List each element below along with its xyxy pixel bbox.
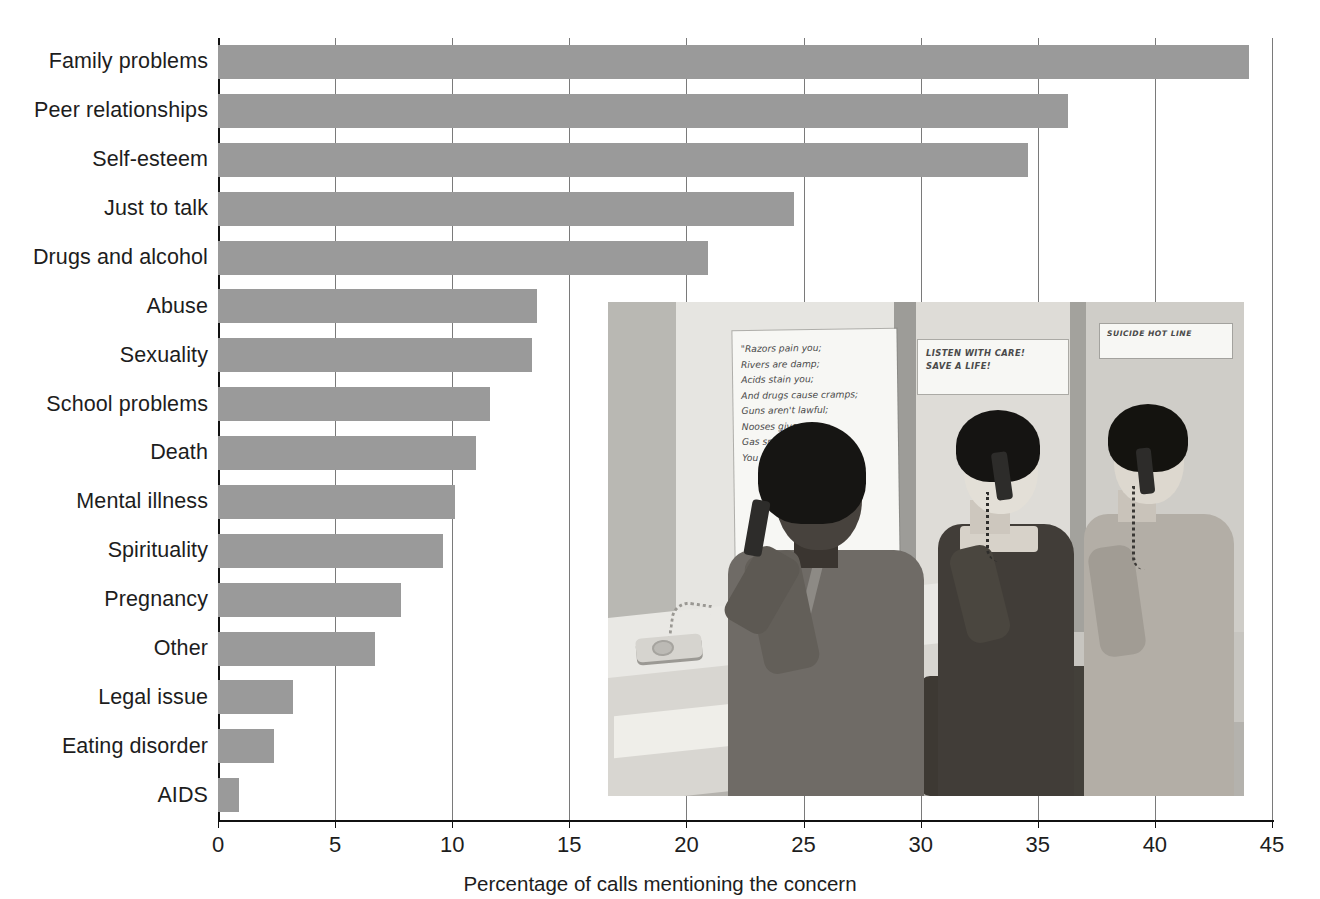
x-tick-label: 15	[539, 832, 599, 858]
x-tick	[1038, 820, 1039, 828]
x-tick-label: 45	[1242, 832, 1302, 858]
y-axis-label: Death	[0, 440, 208, 464]
y-axis-labels: Family problemsPeer relationshipsSelf-es…	[0, 38, 208, 820]
y-axis-label: Pregnancy	[0, 587, 208, 611]
x-tick-label: 25	[774, 832, 834, 858]
y-axis-label: Spirituality	[0, 538, 208, 562]
listen-with-care-sign: LISTEN WITH CARE! SAVE A LIFE!	[918, 340, 1068, 394]
x-tick	[569, 820, 570, 828]
bar-pregnancy	[218, 583, 401, 617]
gridline-45	[1272, 38, 1273, 820]
bar-school-problems	[218, 387, 490, 421]
x-tick	[921, 820, 922, 828]
photo-person-3-handset-cord	[1132, 486, 1161, 570]
y-axis-label: Self-esteem	[0, 147, 208, 171]
bar-aids	[218, 778, 239, 812]
bar-row	[218, 38, 1272, 87]
y-axis-label: Mental illness	[0, 489, 208, 513]
photo-person-1-hair	[758, 422, 866, 524]
x-tick	[804, 820, 805, 828]
x-tick-label: 20	[656, 832, 716, 858]
x-tick	[1272, 820, 1273, 828]
bar-row	[218, 234, 1272, 283]
bar-abuse	[218, 289, 537, 323]
suicide-hot-line-sign: SUICIDE HOT LINE	[1100, 324, 1232, 358]
x-tick-label: 5	[305, 832, 365, 858]
bar-peer-relationships	[218, 94, 1068, 128]
photo-person-2-handset-cord	[986, 492, 1017, 562]
bar-row	[218, 136, 1272, 185]
x-tick	[686, 820, 687, 828]
y-axis-label: Drugs and alcohol	[0, 245, 208, 269]
x-axis-title: Percentage of calls mentioning the conce…	[0, 872, 1320, 896]
x-tick-label: 40	[1125, 832, 1185, 858]
x-tick	[218, 820, 219, 828]
y-axis-label: Family problems	[0, 49, 208, 73]
bar-self-esteem	[218, 143, 1028, 177]
x-tick	[1155, 820, 1156, 828]
bar-eating-disorder	[218, 729, 274, 763]
inset-photograph: "Razors pain you; Rivers are damp; Acids…	[608, 302, 1244, 796]
y-axis-label: AIDS	[0, 783, 208, 807]
bar-family-problems	[218, 45, 1249, 79]
bar-death	[218, 436, 476, 470]
x-axis-line	[218, 820, 1274, 822]
bar-row	[218, 185, 1272, 234]
y-axis-label: Abuse	[0, 294, 208, 318]
bar-row	[218, 87, 1272, 136]
x-tick	[335, 820, 336, 828]
bar-spirituality	[218, 534, 443, 568]
y-axis-label: Sexuality	[0, 343, 208, 367]
x-tick-label: 30	[891, 832, 951, 858]
bar-chart-figure: Family problemsPeer relationshipsSelf-es…	[0, 0, 1320, 899]
x-tick	[452, 820, 453, 828]
bar-sexuality	[218, 338, 532, 372]
x-tick-label: 10	[422, 832, 482, 858]
y-axis-label: Just to talk	[0, 196, 208, 220]
bar-just-to-talk	[218, 192, 794, 226]
y-axis-label: School problems	[0, 392, 208, 416]
y-axis-label: Legal issue	[0, 685, 208, 709]
bar-other	[218, 632, 375, 666]
y-axis-label: Eating disorder	[0, 734, 208, 758]
x-tick-label: 35	[1008, 832, 1068, 858]
x-tick-label: 0	[188, 832, 248, 858]
bar-mental-illness	[218, 485, 455, 519]
bar-legal-issue	[218, 680, 293, 714]
y-axis-label: Peer relationships	[0, 98, 208, 122]
bar-drugs-and-alcohol	[218, 241, 708, 275]
y-axis-label: Other	[0, 636, 208, 660]
